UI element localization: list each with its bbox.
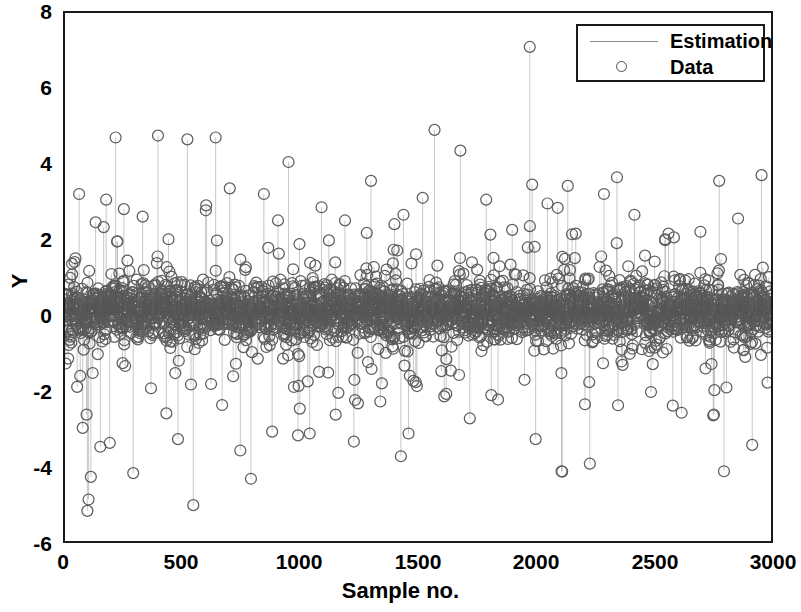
y-tick-label: 6: [0, 77, 52, 98]
legend: Estimation Data: [576, 24, 765, 82]
plot-area: [63, 11, 773, 543]
x-tick-label: 1500: [358, 551, 478, 572]
y-tick-label: -4: [0, 457, 52, 478]
legend-item-data: Data: [578, 54, 763, 81]
legend-line-swatch: [586, 28, 662, 55]
x-tick-label: 1000: [239, 551, 359, 572]
y-tick-label: -2: [0, 381, 52, 402]
y-tick-label: 8: [0, 1, 52, 22]
legend-marker-swatch: [586, 54, 662, 81]
legend-label-estimation: Estimation: [670, 29, 772, 54]
y-axis-title: Y: [7, 251, 33, 311]
x-tick-label: 3000: [713, 551, 801, 572]
y-tick-label: 2: [0, 229, 52, 250]
estimation-line-icon: [590, 41, 658, 42]
x-tick-label: 0: [3, 551, 123, 572]
y-tick-label: 4: [0, 153, 52, 174]
x-axis-title: Sample no.: [0, 578, 801, 604]
data-circle-icon: [616, 61, 627, 72]
legend-label-data: Data: [670, 55, 713, 80]
legend-item-estimation: Estimation: [578, 28, 763, 55]
x-tick-label: 2000: [476, 551, 596, 572]
x-tick-label: 500: [121, 551, 241, 572]
figure: 8 6 4 2 0 -2 -4 -6 0 500 1000 1500 2000 …: [0, 0, 801, 612]
x-tick-label: 2500: [595, 551, 715, 572]
stem-plot-canvas: [65, 13, 771, 541]
